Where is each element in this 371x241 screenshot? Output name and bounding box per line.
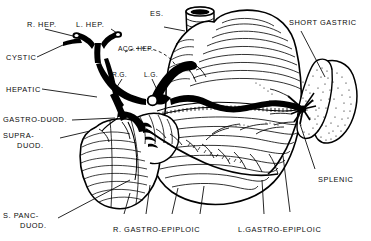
label-supra-duod-line2: DUOD. (17, 141, 44, 150)
label-l-hep: L. HEP. (76, 20, 104, 29)
label-s-panc-duod-line1: S. PANC- (3, 211, 39, 220)
label-lg: L.G. (144, 70, 158, 79)
label-l-gastro-epiploic: L.GASTRO-EPIPLOIC (238, 225, 321, 234)
label-rg: R.G. (112, 70, 127, 79)
label-r-hep: R. HEP. (27, 20, 57, 29)
anatomy-figure: R. HEP. L. HEP. ES. SHORT GASTRIC CYSTIC… (0, 0, 371, 241)
label-hepatic: HEPATIC (6, 85, 41, 94)
label-es: ES. (150, 9, 164, 18)
label-s-panc-duod-line2: DUOD. (20, 221, 47, 230)
label-cystic: CYSTIC (6, 53, 36, 62)
label-short-gastric: SHORT GASTRIC (289, 18, 357, 27)
label-gastro-duod: GASTRO-DUOD. (3, 115, 67, 124)
label-r-gastro-epiploic: R. GASTRO-EPIPLOIC (113, 225, 200, 234)
label-acc-hep: ACC. HEP. (118, 44, 153, 53)
label-splenic: SPLENIC (318, 175, 353, 184)
spleen-shape (297, 59, 357, 143)
label-supra-duod-line1: SUPRA- (3, 131, 34, 140)
